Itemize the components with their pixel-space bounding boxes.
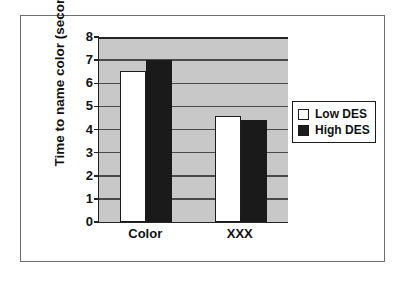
bar-color-high-des	[146, 60, 172, 222]
y-axis-tick-labels: 876543210	[71, 37, 93, 222]
plot-top-border	[99, 37, 288, 39]
y-axis-tick	[94, 59, 99, 61]
bar-color-low-des	[120, 71, 146, 222]
y-axis-tick	[94, 129, 99, 131]
y-axis-tick-label: 0	[73, 215, 93, 228]
x-axis-tick-label: Color	[105, 226, 185, 241]
y-axis-title: Time to name color (seconds)	[52, 0, 67, 167]
y-axis-tick	[94, 175, 99, 177]
legend-label: Low DES	[315, 108, 367, 120]
y-axis-tick-label: 1	[73, 192, 93, 205]
x-axis-tick-label: XXX	[200, 226, 280, 241]
y-axis-tick-label: 4	[73, 123, 93, 136]
legend-item: High DES	[298, 122, 370, 138]
legend-swatch-high	[298, 125, 309, 136]
y-axis-tick-label: 6	[73, 76, 93, 89]
y-axis-tick	[94, 221, 99, 223]
bar-xxx-low-des	[215, 116, 241, 222]
y-axis-tick	[94, 36, 99, 38]
y-axis-tick	[94, 106, 99, 108]
y-axis-tick-label: 8	[73, 30, 93, 43]
y-axis-tick	[94, 198, 99, 200]
y-axis-tick-label: 5	[73, 99, 93, 112]
bar-xxx-high-des	[241, 120, 267, 222]
figure: Time to name color (seconds) 876543210 L…	[0, 0, 407, 281]
legend-swatch-low	[298, 109, 309, 120]
y-axis-tick-label: 7	[73, 53, 93, 66]
y-axis-tick-label: 2	[73, 169, 93, 182]
legend: Low DESHigh DES	[292, 101, 376, 143]
y-axis-tick-label: 3	[73, 146, 93, 159]
plot-area	[98, 37, 288, 223]
gridline	[99, 59, 288, 61]
legend-item: Low DES	[298, 106, 370, 122]
legend-label: High DES	[315, 124, 370, 136]
y-axis-tick	[94, 152, 99, 154]
y-axis-tick	[94, 83, 99, 85]
